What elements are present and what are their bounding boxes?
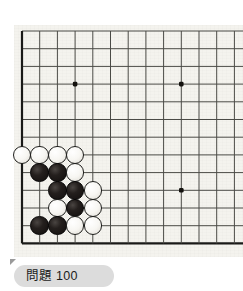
white-stone[interactable] [66, 163, 84, 181]
black-stone[interactable] [30, 163, 48, 181]
stone-layer [0, 0, 243, 257]
black-stone[interactable] [66, 181, 84, 199]
caption-row: 問題 100 [0, 259, 243, 291]
white-stone[interactable] [66, 146, 84, 164]
white-stone[interactable] [84, 181, 102, 199]
white-stone[interactable] [84, 216, 102, 234]
black-stone[interactable] [48, 181, 66, 199]
white-stone[interactable] [13, 146, 31, 164]
black-stone[interactable] [48, 216, 66, 234]
corner-fold-icon [10, 259, 16, 265]
white-stone[interactable] [66, 216, 84, 234]
white-stone[interactable] [84, 199, 102, 217]
problem-number-label: 問題 100 [14, 265, 114, 287]
go-problem-diagram [0, 0, 243, 257]
black-stone[interactable] [66, 199, 84, 217]
black-stone[interactable] [30, 216, 48, 234]
white-stone[interactable] [48, 199, 66, 217]
black-stone[interactable] [48, 163, 66, 181]
white-stone[interactable] [48, 146, 66, 164]
white-stone[interactable] [30, 146, 48, 164]
